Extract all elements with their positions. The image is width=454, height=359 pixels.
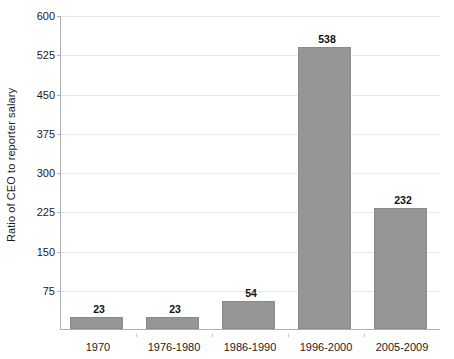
bar-slot: 538 — [289, 16, 365, 329]
y-axis-tick-label: 450 — [37, 89, 55, 101]
y-axis-tick-labels: 75150225300375450525600 — [22, 16, 55, 330]
bar-value-label: 54 — [213, 287, 289, 299]
bar-value-label: 538 — [289, 33, 365, 45]
bar-slot: 232 — [365, 16, 441, 329]
y-axis-tick-label: 300 — [37, 167, 55, 179]
x-axis-tick-labels: 19701976-19801986-19901996-20002005-2009 — [60, 334, 440, 356]
bar-value-label: 23 — [61, 303, 137, 315]
bar[interactable] — [70, 317, 122, 329]
x-axis-tick-label: 1970 — [60, 341, 136, 353]
bar-series: 232354538232 — [61, 16, 440, 329]
bar-slot: 23 — [61, 16, 137, 329]
x-axis-tick-label: 1996-2000 — [288, 341, 364, 353]
x-axis-tick-mark — [136, 334, 137, 337]
bar[interactable] — [298, 47, 350, 329]
bar[interactable] — [374, 208, 426, 329]
y-axis-tick-label: 75 — [43, 285, 55, 297]
x-axis-tick-label: 1986-1990 — [212, 341, 288, 353]
x-axis-tick-label: 1976-1980 — [136, 341, 212, 353]
bar-value-label: 23 — [137, 303, 213, 315]
x-axis-tick-mark — [288, 334, 289, 337]
bar[interactable] — [222, 301, 274, 329]
y-axis-tick-label: 375 — [37, 128, 55, 140]
x-axis-tick-mark — [212, 334, 213, 337]
y-axis-title-container: Ratio of CEO to reporter salary — [0, 0, 22, 330]
y-axis-tick-label: 600 — [37, 10, 55, 22]
bar[interactable] — [146, 317, 198, 329]
y-axis-tick-label: 525 — [37, 49, 55, 61]
bar-slot: 54 — [213, 16, 289, 329]
y-axis-title: Ratio of CEO to reporter salary — [5, 88, 17, 242]
bar-chart-figure: Ratio of CEO to reporter salary 75150225… — [0, 0, 454, 359]
bar-value-label: 232 — [365, 194, 441, 206]
y-axis-tick-label: 225 — [37, 206, 55, 218]
x-axis-tick-mark — [364, 334, 365, 337]
plot-area: 232354538232 — [60, 16, 440, 330]
y-axis-tick-label: 150 — [37, 246, 55, 258]
x-axis-tick-label: 2005-2009 — [364, 341, 440, 353]
bar-slot: 23 — [137, 16, 213, 329]
